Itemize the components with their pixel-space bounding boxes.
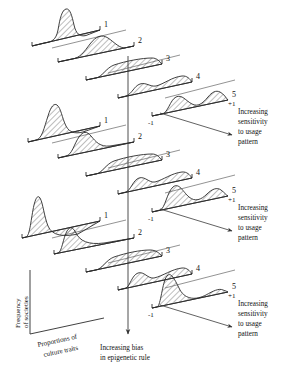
sensitivity-label-3: Increasing sensitivity to usage pattern bbox=[238, 300, 268, 338]
curve-label: 1 bbox=[104, 20, 108, 29]
endpoint-label-right: +1 bbox=[228, 196, 236, 204]
curve-label: 1 bbox=[104, 116, 108, 125]
svg-text:to usage: to usage bbox=[238, 320, 262, 328]
svg-text:in epigenetic rule: in epigenetic rule bbox=[100, 354, 150, 362]
curve-3-1: 1 bbox=[22, 197, 108, 238]
curve-label: 2 bbox=[138, 36, 142, 45]
y-axis-label-line2: of societies bbox=[22, 296, 30, 328]
sensitivity-arrow-1 bbox=[160, 113, 232, 135]
curve-2-5: 5 +1 -1 bbox=[148, 186, 236, 223]
epigenetic-bias-label: Increasing bias in epigenetic rule bbox=[100, 344, 150, 362]
axis-legend: Frequency of societies Proportions of cu… bbox=[14, 270, 104, 359]
curve-group-1: 1 2 3 4 5 +1 -1 bbox=[32, 9, 268, 146]
curve-label: 4 bbox=[196, 168, 200, 177]
svg-text:to usage: to usage bbox=[238, 128, 262, 136]
curve-label: 5 bbox=[232, 282, 236, 291]
svg-text:to usage: to usage bbox=[238, 224, 262, 232]
curve-3-2: 2 bbox=[54, 228, 142, 254]
legend-x-axis bbox=[30, 318, 104, 334]
curve-3-4: 4 bbox=[118, 264, 200, 290]
endpoint-label-left: -1 bbox=[148, 215, 154, 223]
svg-text:Increasing bias: Increasing bias bbox=[100, 344, 144, 352]
curve-label: 3 bbox=[166, 54, 170, 63]
curve-group-3: 1 2 3 4 5 +1 -1 bbox=[22, 197, 268, 338]
endpoint-label-right: +1 bbox=[228, 100, 236, 108]
curve-label: 1 bbox=[104, 211, 108, 220]
svg-text:sensitivity: sensitivity bbox=[238, 214, 268, 222]
curve-label: 2 bbox=[138, 228, 142, 237]
curve-label: 5 bbox=[232, 186, 236, 195]
sensitivity-arrow-3 bbox=[160, 305, 232, 327]
endpoint-label-left: -1 bbox=[148, 119, 154, 127]
sensitivity-label-2: Increasing sensitivity to usage pattern bbox=[238, 204, 268, 242]
svg-text:pattern: pattern bbox=[238, 138, 258, 146]
curve-label: 3 bbox=[166, 150, 170, 159]
curve-label: 3 bbox=[166, 246, 170, 255]
svg-text:Increasing: Increasing bbox=[238, 204, 268, 212]
curve-label: 4 bbox=[196, 72, 200, 81]
curve-label: 4 bbox=[196, 264, 200, 273]
svg-text:pattern: pattern bbox=[238, 234, 258, 242]
endpoint-label-right: +1 bbox=[228, 292, 236, 300]
svg-text:sensitivity: sensitivity bbox=[238, 118, 268, 126]
sensitivity-label-1: Increasing sensitivity to usage pattern bbox=[238, 108, 268, 146]
diagram-svg: 1 2 3 4 5 +1 -1 bbox=[0, 0, 293, 374]
svg-text:Increasing: Increasing bbox=[238, 108, 268, 116]
svg-text:sensitivity: sensitivity bbox=[238, 310, 268, 318]
curve-2-2: 2 bbox=[58, 132, 142, 158]
curve-1-2: 2 bbox=[58, 36, 142, 62]
curve-2-4: 4 bbox=[118, 168, 200, 194]
curve-1-4: 4 bbox=[118, 72, 200, 98]
svg-text:pattern: pattern bbox=[238, 330, 258, 338]
figure-container: 1 2 3 4 5 +1 -1 bbox=[0, 0, 293, 374]
curve-label: 2 bbox=[138, 132, 142, 141]
endpoint-label-left: -1 bbox=[148, 311, 154, 319]
y-axis-label-line1: Frequency bbox=[14, 298, 22, 328]
curve-2-1: 1 bbox=[28, 104, 108, 142]
curve-label: 5 bbox=[232, 90, 236, 99]
svg-text:Increasing: Increasing bbox=[238, 300, 268, 308]
curve-1-5: 5 +1 -1 bbox=[148, 90, 236, 127]
sensitivity-arrow-2 bbox=[160, 209, 232, 231]
